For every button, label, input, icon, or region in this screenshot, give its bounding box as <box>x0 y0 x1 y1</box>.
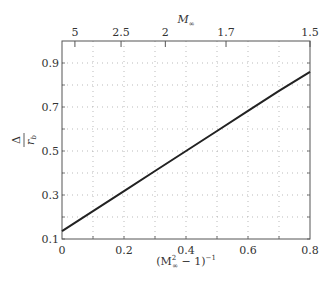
y-axis-title-numerator: Δ <box>10 136 23 144</box>
grid-lines <box>62 41 310 239</box>
x-tick-label: 0 <box>59 244 66 257</box>
x-tick-label: 0.8 <box>301 244 319 257</box>
y-tick-label: 0.3 <box>42 189 60 202</box>
y-tick-label: 0.9 <box>42 57 60 70</box>
top-tick-label: 5 <box>71 26 78 39</box>
top-axis-title: M∞ <box>176 13 194 28</box>
top-tick-label: 2 <box>162 26 169 39</box>
data-series <box>62 72 310 231</box>
y-axis-title-denominator: rb <box>24 135 38 145</box>
y-axis-title: Δ rb <box>10 133 38 147</box>
x-tick-label: 0.2 <box>115 244 133 257</box>
series-line <box>62 72 310 231</box>
axis-ticks <box>62 41 310 239</box>
y-tick-label: 0.7 <box>42 101 60 114</box>
y-tick-label: 0.1 <box>42 233 60 246</box>
y-tick-label: 0.5 <box>42 145 60 158</box>
top-tick-label: 1.5 <box>301 26 319 39</box>
chart: 00.20.40.60.80.10.30.50.70.952.521.71.5 … <box>0 0 333 281</box>
axis-tick-labels: 00.20.40.60.80.10.30.50.70.952.521.71.5 <box>42 26 319 257</box>
top-tick-label: 1.7 <box>217 26 235 39</box>
x-tick-label: 0.6 <box>239 244 257 257</box>
x-axis-title: (M2∞ − 1)−1 <box>156 254 216 270</box>
top-tick-label: 2.5 <box>112 26 130 39</box>
plot-frame <box>62 41 310 239</box>
